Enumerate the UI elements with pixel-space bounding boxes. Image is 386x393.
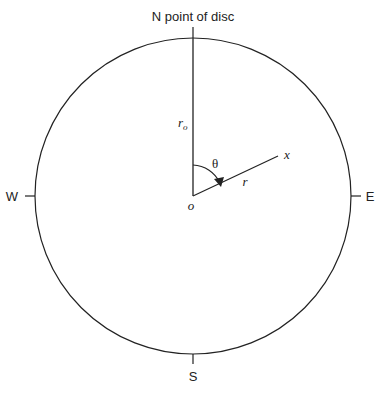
west-label: W [6, 189, 19, 204]
solar-disc-diagram: N point of disc S W E ro θ r x o [0, 0, 386, 393]
angle-label: θ [212, 156, 218, 171]
disc-radius-subscript: o [183, 122, 188, 132]
disc-radius-label: ro [178, 115, 188, 132]
north-label: N point of disc [152, 9, 235, 24]
point-radius-label: r [242, 174, 248, 189]
south-label: S [189, 369, 198, 384]
origin-label: o [188, 198, 195, 213]
east-label: E [366, 189, 375, 204]
point-radius-line [193, 156, 278, 196]
point-x-label: x [283, 147, 290, 162]
